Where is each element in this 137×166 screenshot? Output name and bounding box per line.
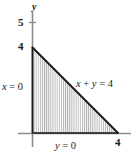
y-axis-label: y — [32, 2, 36, 12]
y-tick-label-5: 5 — [18, 17, 24, 28]
label-x-equals-0: x = 0 — [2, 82, 23, 93]
label-y-equals-0: y = 0 — [55, 141, 76, 152]
x-tick-label-4: 4 — [115, 137, 121, 148]
y-tick-label-4: 4 — [18, 41, 24, 52]
math-figure: y 5 4 4 x = 0 y = 0 x + y = 4 — [0, 0, 137, 166]
label-x-plus-y-equals-4: x + y = 4 — [76, 79, 113, 90]
